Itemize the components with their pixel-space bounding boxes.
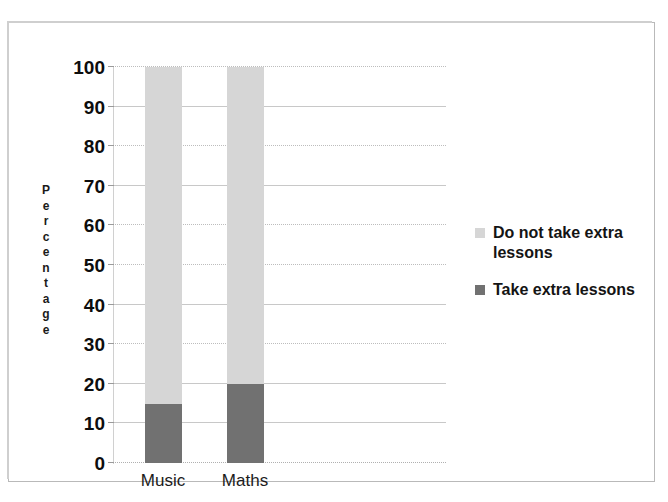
y-axis-tick-label: 90 (49, 97, 105, 116)
chart-frame: Percentage 0102030405060708090100 MusicM… (8, 22, 655, 482)
y-axis-tick-mark (108, 106, 114, 107)
x-axis-category-labels: MusicMaths (113, 471, 446, 501)
chart-legend: Do not take extra lessonsTake extra less… (475, 223, 650, 317)
legend-item-label: Take extra lessons (493, 280, 635, 300)
y-axis-tick-label: 50 (49, 256, 105, 275)
y-axis-tick-label: 0 (49, 454, 105, 473)
legend-item-label: Do not take extra lessons (493, 223, 650, 263)
y-axis-tick-label: 70 (49, 176, 105, 195)
y-axis-tick-label: 80 (49, 137, 105, 156)
legend-color-swatch (475, 285, 485, 295)
bar-segment-take-extra-lessons[interactable] (227, 384, 264, 463)
bar-group[interactable] (227, 67, 264, 463)
y-axis-tick-mark (108, 343, 114, 344)
bar-segment-do-not-take-extra-lessons[interactable] (145, 67, 182, 404)
legend-item[interactable]: Take extra lessons (475, 280, 650, 300)
y-axis-tick-labels: 0102030405060708090100 (43, 67, 105, 463)
chart-screenshot: Percentage 0102030405060708090100 MusicM… (0, 0, 668, 502)
legend-item[interactable]: Do not take extra lessons (475, 223, 650, 263)
y-axis-tick-mark (108, 462, 114, 463)
y-axis-tick-label: 60 (49, 216, 105, 235)
y-axis-tick-mark (108, 145, 114, 146)
y-axis-tick-mark (108, 264, 114, 265)
plot-area (113, 67, 446, 463)
bar-group[interactable] (145, 67, 182, 463)
y-axis-tick-label: 100 (49, 58, 105, 77)
bar-segment-do-not-take-extra-lessons[interactable] (227, 67, 264, 384)
y-axis-tick-label: 30 (49, 335, 105, 354)
y-axis-tick-mark (108, 422, 114, 423)
y-axis-tick-mark (108, 66, 114, 67)
y-axis-tick-mark (108, 185, 114, 186)
legend-color-swatch (475, 228, 485, 238)
y-axis-tick-mark (108, 304, 114, 305)
y-axis-tick-mark (108, 224, 114, 225)
bar-segment-take-extra-lessons[interactable] (145, 404, 182, 463)
x-axis-category-label: Maths (200, 471, 290, 491)
y-axis-tick-label: 10 (49, 414, 105, 433)
x-axis-category-label: Music (118, 471, 208, 491)
y-axis-tick-label: 40 (49, 295, 105, 314)
y-axis-tick-mark (108, 383, 114, 384)
y-axis-tick-label: 20 (49, 374, 105, 393)
